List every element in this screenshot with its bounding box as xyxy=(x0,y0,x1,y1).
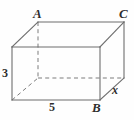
vertex-label-a: A xyxy=(33,7,42,20)
vertex-label-b: B xyxy=(92,101,101,114)
dimension-label-depth: x xyxy=(112,84,118,96)
hidden-edge-bottom-left-depth xyxy=(12,78,38,100)
geometry-figure: A C B 3 5 x xyxy=(0,0,134,120)
rectangular-prism-drawing xyxy=(0,0,134,120)
dimension-label-height: 3 xyxy=(2,67,8,79)
dimension-label-width: 5 xyxy=(49,101,55,113)
vertex-label-c: C xyxy=(119,7,128,20)
edge-top-right-depth xyxy=(100,22,124,47)
edge-top-left-depth xyxy=(12,22,38,47)
